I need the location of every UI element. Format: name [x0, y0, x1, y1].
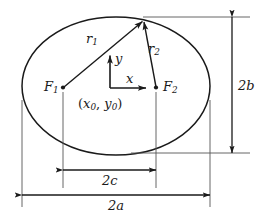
ellipse-diagram-canvas [0, 0, 278, 219]
focus-1-point [61, 85, 65, 89]
center-coordinates-label: (x0, y0) [78, 97, 122, 112]
radius-r1-label-subscript: 1 [92, 37, 98, 47]
focus-1-label-subscript: 1 [53, 85, 59, 95]
focus-1-label-text: F [44, 79, 53, 94]
center-close-paren: ) [117, 96, 122, 111]
radius-r1-label: r1 [86, 32, 98, 47]
dimension-label-2b: 2b [238, 79, 255, 92]
axis-x-label-text: x [126, 71, 133, 86]
axis-x-label: x [126, 72, 133, 85]
axis-y-label: y [115, 52, 122, 65]
radius-r2-label: r2 [148, 42, 160, 57]
dimension-label-2c: 2c [102, 174, 118, 187]
focus-2-label-subscript: 2 [172, 85, 178, 95]
focus-1-label: F1 [44, 80, 59, 95]
radius-r2-label-subscript: 2 [154, 47, 160, 57]
focus-2-label: F2 [163, 80, 178, 95]
center-y-text: y [104, 96, 111, 111]
dimension-label-2a: 2a [108, 199, 124, 212]
focus-2-point [154, 85, 158, 89]
dimension-label-2c-text: 2c [102, 173, 118, 188]
ellipse-figure: F1 F2 r1 r2 y x (x0, y0) 2b 2c 2a [0, 0, 278, 219]
dimension-label-2a-text: 2a [108, 198, 124, 213]
center-comma: , [96, 96, 100, 111]
focus-2-label-text: F [163, 79, 172, 94]
axis-y-label-text: y [115, 51, 122, 66]
dimension-label-2b-text: 2b [238, 78, 255, 93]
